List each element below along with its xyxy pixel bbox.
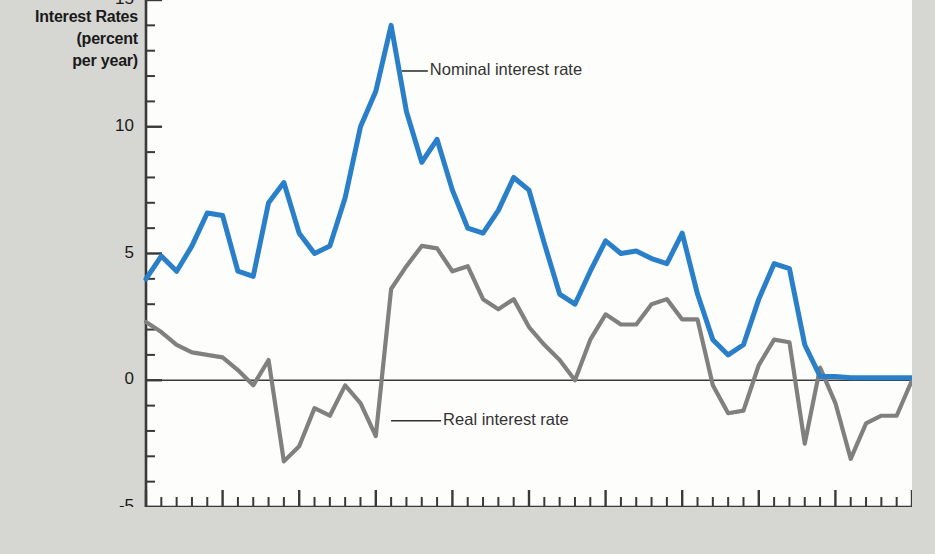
y-tick-label: 15 xyxy=(94,0,134,9)
chart-svg xyxy=(0,0,935,554)
y-tick-label: 10 xyxy=(94,116,134,136)
bottom-page-margin xyxy=(0,507,935,554)
right-page-margin xyxy=(912,0,935,554)
real-series-label: Real interest rate xyxy=(443,410,569,429)
y-tick-label: 0 xyxy=(94,369,134,389)
nominal-series-label: Nominal interest rate xyxy=(430,60,582,79)
series-line-real xyxy=(146,246,912,461)
y-tick-label: 5 xyxy=(94,243,134,263)
chart-figure: Interest Rates (percent per year) Nomina… xyxy=(0,0,935,554)
